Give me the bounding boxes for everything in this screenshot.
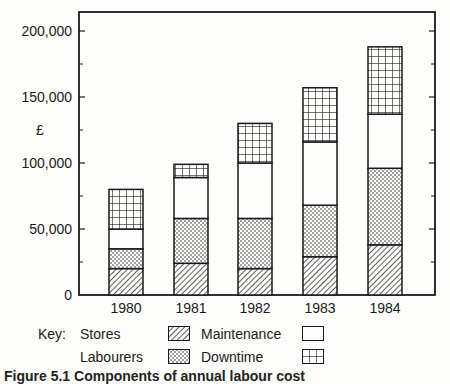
figure-caption: Figure 5.1 Components of annual labour c… [4, 368, 305, 384]
x-axis: 19801981198219831984 [110, 300, 400, 316]
bar-segment-labourers [238, 218, 272, 268]
bar-segment-stores [238, 269, 272, 295]
y-tick-label: 50,000 [29, 221, 72, 237]
bar-1984 [368, 47, 402, 295]
bar-segment-maintenance [109, 229, 143, 249]
y-axis-label: £ [36, 122, 44, 138]
bar-segment-maintenance [368, 114, 402, 168]
bar-segment-downtime [238, 123, 272, 163]
bar-segment-downtime [303, 88, 337, 142]
bar-segment-labourers [174, 218, 208, 263]
bar-segment-labourers [109, 249, 143, 269]
x-tick-label: 1982 [239, 300, 270, 316]
bar-1983 [303, 88, 337, 295]
y-tick-label: 150,000 [21, 89, 72, 105]
legend-label-maintenance: Maintenance [201, 326, 281, 342]
bar-segment-labourers [368, 168, 402, 245]
bar-segment-downtime [174, 164, 208, 177]
x-tick-label: 1983 [304, 300, 335, 316]
y-tick-label: 0 [64, 287, 72, 303]
bar-segment-stores [109, 269, 143, 295]
bar-1982 [238, 123, 272, 295]
bar-segment-downtime [368, 47, 402, 114]
bar-segment-stores [368, 245, 402, 295]
bar-1981 [174, 164, 208, 295]
legend-label-stores: Stores [80, 326, 120, 342]
legend-key-label: Key: [38, 326, 66, 342]
y-tick-label: 200,000 [21, 23, 72, 39]
bar-segment-labourers [303, 205, 337, 256]
bar-segment-downtime [109, 189, 143, 229]
bars [109, 47, 402, 295]
bar-segment-stores [303, 257, 337, 295]
bar-segment-maintenance [238, 163, 272, 218]
bar-segment-maintenance [174, 178, 208, 219]
x-tick-label: 1984 [369, 300, 400, 316]
legend-label-labourers: Labourers [80, 349, 143, 365]
bar-segment-stores [174, 263, 208, 295]
legend-label-downtime: Downtime [201, 349, 263, 365]
legend-swatch-downtime [302, 349, 324, 364]
x-tick-label: 1980 [110, 300, 141, 316]
bar-1980 [109, 189, 143, 295]
legend-swatch-labourers [168, 349, 190, 364]
legend-swatch-stores [168, 326, 190, 341]
x-tick-label: 1981 [175, 300, 206, 316]
legend-swatch-maintenance [302, 326, 324, 341]
y-tick-label: 100,000 [21, 155, 72, 171]
bar-segment-maintenance [303, 142, 337, 205]
